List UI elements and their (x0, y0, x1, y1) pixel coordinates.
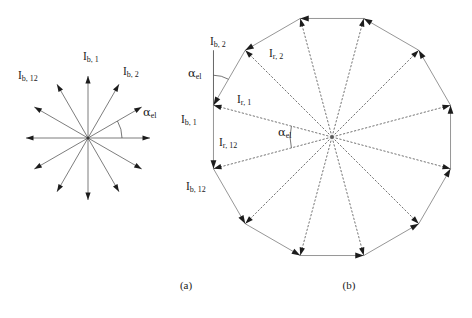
polygon-edge-arrow-8 (291, 249, 300, 256)
label-subscript: el (286, 131, 293, 140)
radial-vector-arrow-9 (300, 247, 305, 255)
radial-vector-2 (332, 50, 419, 137)
label-subscript: r, 12 (223, 141, 237, 150)
panel-a-label-i_b2: Ib, 2 (123, 65, 139, 79)
polygon-edge-arrow-10 (410, 224, 419, 231)
star-ray-arrow-2 (134, 107, 142, 113)
star-ray-11 (88, 138, 119, 192)
radial-vector-1 (332, 105, 451, 137)
label-subscript: r, 1 (241, 98, 251, 107)
caption-a: (a) (180, 279, 193, 292)
radial-vector-9 (300, 137, 332, 256)
vector-star-polygon-figure: Ib, 12Ib, 1Ib, 2αelIb, 2αelIr, 2Ir, 1Ib,… (0, 0, 472, 318)
radial-vector-5 (245, 50, 332, 137)
label-subscript: b, 2 (127, 70, 139, 79)
figure-labels: Ib, 12Ib, 1Ib, 2αelIb, 2αelIr, 2Ir, 1Ib,… (18, 35, 292, 194)
star-ray-arrow-1 (143, 135, 151, 140)
radial-vector-arrow-8 (245, 216, 253, 224)
radial-vector-4 (300, 18, 332, 137)
label-subscript: r, 2 (273, 52, 283, 61)
panel-b-label-i_r2: Ir, 2 (269, 47, 283, 61)
star-ray-arrow-12 (134, 163, 142, 169)
label-subscript: el (196, 72, 203, 81)
panel-b-label-i_r12: Ir, 12 (219, 136, 237, 150)
radial-vector-11 (332, 137, 419, 224)
polygon-edge-1 (419, 50, 451, 105)
radial-vector-arrow-5 (245, 50, 253, 58)
radial-vector-10 (332, 137, 364, 256)
star-ray-arrow-8 (34, 163, 42, 169)
panel-b-label-i_b2: Ib, 2 (210, 35, 226, 49)
star-ray-arrow-7 (26, 135, 34, 140)
star-center-dot (86, 136, 89, 139)
polygon-edge-arrow-7 (238, 215, 245, 224)
panel-b-label-alpha_el_center: αel (278, 125, 292, 140)
star-ray-8 (34, 138, 88, 169)
radial-vector-arrow-12 (442, 164, 450, 169)
panel-b-label-i_b12: Ib, 12 (186, 180, 206, 194)
polygon-edge-arrow-2 (364, 18, 373, 25)
star-ray-6 (34, 107, 88, 138)
star-ray-12 (88, 138, 142, 169)
polygon-edge-10 (364, 224, 419, 256)
star-ray-arrow-10 (85, 193, 90, 201)
panel-a-star-diagram (26, 76, 150, 200)
polygon-edge-7 (213, 169, 245, 224)
radial-vector-arrow-6 (213, 105, 221, 110)
label-subscript: b, 12 (22, 74, 38, 83)
label-subscript: el (151, 111, 158, 120)
polygon-edge-11 (419, 169, 451, 224)
star-ray-arrow-3 (113, 84, 119, 92)
caption-b: (b) (343, 279, 356, 292)
label-subscript: b, 1 (87, 55, 99, 64)
alpha-el-arc-a (117, 121, 122, 138)
panel-a-label-alpha_el: αel (143, 105, 157, 120)
star-ray-arrow-6 (34, 107, 42, 113)
panel-b-label-i_b1: Ib, 1 (181, 113, 197, 127)
polygon-edge-8 (245, 224, 300, 256)
radial-vector-arrow-3 (359, 18, 364, 26)
polygon-edge-arrow-1 (419, 50, 426, 59)
polygon-edge-arrow-4 (245, 43, 254, 50)
radial-vector-3 (332, 18, 364, 137)
star-ray-arrow-11 (113, 184, 119, 192)
star-ray-5 (57, 84, 88, 138)
star-ray-arrow-5 (57, 84, 63, 92)
label-subscript: b, 2 (214, 40, 226, 49)
polygon-edge-arrow-5 (213, 96, 220, 105)
polygon-edge-2 (364, 18, 419, 50)
panel-b-polygon-diagram (211, 16, 454, 259)
panel-b-label-alpha_el_vertex: αel (188, 66, 202, 81)
polygon-center-dot (331, 136, 334, 139)
figure-root: Ib, 12Ib, 1Ib, 2αelIb, 2αelIr, 2Ir, 1Ib,… (0, 0, 472, 318)
alpha-el-arc-vertex-b (213, 75, 228, 79)
star-ray-arrow-4 (85, 76, 90, 84)
star-ray-arrow-9 (57, 184, 63, 192)
radial-vector-arrow-11 (411, 216, 419, 224)
panel-a-label-i_b12: Ib, 12 (18, 69, 38, 83)
radial-vector-8 (245, 137, 332, 224)
radial-vector-arrow-2 (411, 50, 419, 58)
polygon-edge-arrow-11 (444, 169, 451, 178)
panel-a-label-i_b1: Ib, 1 (83, 50, 99, 64)
polygon-edge-4 (245, 18, 300, 50)
star-ray-9 (57, 138, 88, 192)
panel-b-label-i_r1: Ir, 1 (237, 93, 251, 107)
label-subscript: b, 1 (185, 118, 197, 127)
label-subscript: b, 12 (190, 185, 206, 194)
star-ray-3 (88, 84, 119, 138)
radial-vector-12 (332, 137, 451, 169)
radial-vector-6 (213, 105, 332, 137)
star-ray-2 (88, 107, 142, 138)
